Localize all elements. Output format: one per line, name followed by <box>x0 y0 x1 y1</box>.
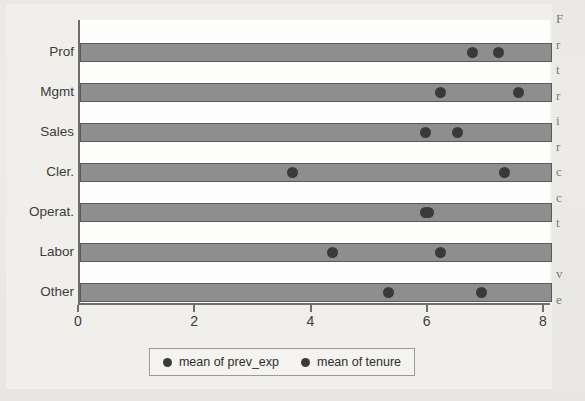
data-point-marker <box>287 167 298 178</box>
data-point-marker <box>435 87 446 98</box>
gutter-text-line: F <box>556 6 585 32</box>
legend-entry[interactable]: mean of prev_exp <box>163 355 279 369</box>
x-tick-label: 8 <box>539 313 547 329</box>
x-tick <box>310 305 312 312</box>
x-tick-label: 4 <box>307 313 315 329</box>
x-axis: 02468 <box>78 305 550 335</box>
gutter-text-line: t <box>556 210 585 236</box>
y-axis-label-mgmt: Mgmt <box>4 75 74 110</box>
bar <box>80 123 552 142</box>
chart-figure: ProfMgmtSalesCler.Operat.LaborOther 0246… <box>6 4 552 389</box>
x-tick <box>77 305 79 312</box>
gutter-text-line: t <box>556 57 585 83</box>
x-tick <box>542 305 544 312</box>
x-tick <box>426 305 428 312</box>
bar <box>80 203 552 222</box>
chart-row: Cler. <box>80 155 550 190</box>
legend-marker-icon <box>301 358 310 367</box>
gutter-text-line: v <box>556 261 585 287</box>
chart-row: Labor <box>80 235 550 270</box>
x-tick-label: 0 <box>74 313 82 329</box>
chart-row: Mgmt <box>80 75 550 110</box>
y-axis-label-labor: Labor <box>4 235 74 270</box>
data-point-marker <box>467 47 478 58</box>
chart-row: Operat. <box>80 195 550 230</box>
gutter-text-line: i <box>556 108 585 134</box>
y-axis-label-prof: Prof <box>4 35 74 70</box>
bar <box>80 83 552 102</box>
chart-row: Prof <box>80 35 550 70</box>
legend-marker-icon <box>163 358 172 367</box>
y-axis-label-other: Other <box>4 275 74 310</box>
y-axis-label-operat: Operat. <box>4 195 74 230</box>
gutter-text-line: e <box>556 287 585 313</box>
y-axis-label-cler: Cler. <box>4 155 74 190</box>
x-tick <box>193 305 195 312</box>
x-tick-label: 6 <box>423 313 431 329</box>
chart-legend: mean of prev_expmean of tenure <box>149 348 415 376</box>
gutter-text-line: c <box>556 185 585 211</box>
gutter-text-line <box>556 236 585 262</box>
legend-entry[interactable]: mean of tenure <box>301 355 401 369</box>
plot-area: ProfMgmtSalesCler.Operat.LaborOther <box>78 20 550 305</box>
data-point-marker <box>499 167 510 178</box>
data-point-marker <box>383 287 394 298</box>
y-axis-label-sales: Sales <box>4 115 74 150</box>
gutter-text-line: r <box>556 32 585 58</box>
data-point-marker <box>435 247 446 258</box>
gutter-text-line: c <box>556 159 585 185</box>
gutter-text-line: r <box>556 134 585 160</box>
bar <box>80 243 552 262</box>
chart-row: Sales <box>80 115 550 150</box>
data-point-marker <box>493 47 504 58</box>
x-tick-label: 2 <box>190 313 198 329</box>
gutter-text-line: r <box>556 83 585 109</box>
page-gutter-text: Frtrircctve <box>556 0 585 401</box>
data-point-marker <box>476 287 487 298</box>
bar <box>80 163 552 182</box>
legend-label: mean of tenure <box>317 355 401 369</box>
bar <box>80 43 552 62</box>
legend-label: mean of prev_exp <box>179 355 279 369</box>
bars-container: ProfMgmtSalesCler.Operat.LaborOther <box>80 20 550 303</box>
